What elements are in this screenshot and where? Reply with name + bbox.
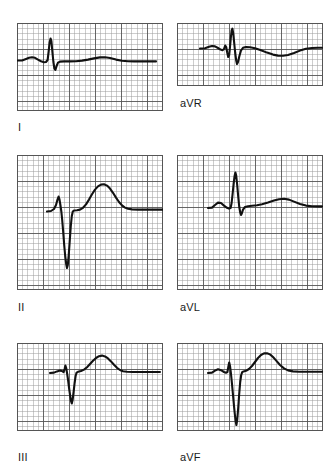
- lead-label-lead-aVF: aVF: [180, 452, 201, 463]
- ecg-panel-lead-aVL: [177, 155, 323, 290]
- ecg-panel-lead-II: [17, 155, 163, 290]
- lead-label-lead-aVL: aVL: [180, 302, 200, 313]
- ecg-grid-lead-III: [17, 343, 163, 431]
- ecg-trace-lead-aVL: [208, 173, 322, 216]
- lead-label-lead-III: III: [18, 452, 28, 463]
- lead-label-lead-I: I: [18, 122, 21, 133]
- lead-label-lead-aVR: aVR: [180, 98, 202, 109]
- ecg-panel-lead-aVR: [177, 23, 323, 86]
- ecg-panel-lead-III: [17, 343, 163, 431]
- ecg-grid-lead-aVR: [177, 23, 323, 86]
- ecg-grid-lead-aVL: [177, 155, 323, 290]
- lead-label-lead-II: II: [18, 302, 25, 313]
- ecg-grid-lead-II: [17, 155, 163, 290]
- ecg-trace-lead-aVR: [200, 29, 322, 64]
- ecg-grid-lead-I: [17, 23, 163, 111]
- ecg-panel-lead-I: [17, 23, 163, 111]
- ecg-grid-lead-aVF: [177, 343, 323, 431]
- ecg-panel-lead-aVF: [177, 343, 323, 431]
- ecg-figure: IaVRIIaVLIIIaVF: [0, 0, 332, 465]
